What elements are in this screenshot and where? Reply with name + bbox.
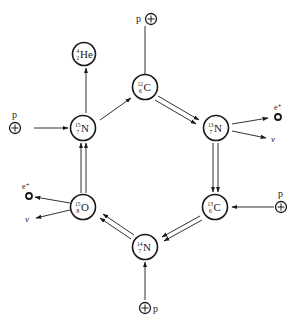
positron-left	[26, 193, 32, 199]
positron-right	[275, 114, 281, 120]
proton-right	[276, 202, 287, 213]
arrow-n13-to-positron	[232, 118, 268, 124]
proton-top-label: p	[136, 13, 141, 24]
c13-mass: 13	[208, 201, 214, 207]
arrow-n15-to-c12	[100, 98, 131, 120]
arrow-n13-to-neutrino	[232, 131, 266, 138]
nucleus-n15: 15 7 N	[71, 116, 96, 141]
cno-cycle-diagram: 12 6 C 13 7 N 13 6 C 14 7 N 15 8 O 15 7 …	[0, 0, 301, 335]
n13-charge: 7	[210, 129, 213, 135]
n15-charge: 7	[77, 129, 80, 135]
arrow-n13-to-c13	[213, 143, 218, 192]
neutrino-left-label: v	[25, 214, 29, 224]
neutrino-right-label: v	[271, 134, 275, 144]
positron-right-label: e⁺	[274, 103, 282, 112]
arrow-c13-to-n14	[162, 216, 202, 241]
nucleus-c13: 13 6 C	[203, 195, 228, 220]
c12-mass: 12	[138, 81, 144, 87]
n15-symbol: N	[81, 122, 89, 134]
positron-left-label: e⁺	[22, 182, 30, 191]
n15-mass: 15	[75, 122, 81, 128]
proton-right-label: p	[278, 188, 283, 199]
arrow-o15-to-neutrino	[36, 210, 70, 218]
arrow-n14-to-o15	[100, 214, 134, 239]
arrow-c12-to-n13	[155, 96, 199, 124]
n14-mass: 14	[137, 241, 143, 247]
n13-symbol: N	[214, 122, 222, 134]
nucleus-he4: 4 2 He	[73, 43, 96, 66]
arrow-o15-to-positron	[35, 197, 70, 203]
c13-charge: 6	[209, 208, 212, 214]
c12-symbol: C	[144, 81, 151, 93]
nucleus-o15: 15 8 O	[71, 195, 96, 220]
n14-charge: 7	[139, 248, 142, 254]
n13-mass: 13	[208, 122, 214, 128]
o15-symbol: O	[81, 201, 89, 213]
c12-charge: 6	[139, 88, 142, 94]
nucleus-c12: 12 6 C	[133, 75, 158, 100]
proton-left	[10, 123, 21, 134]
he4-symbol: He	[80, 48, 93, 60]
proton-bottom	[140, 303, 151, 314]
arrow-o15-to-n15	[81, 143, 86, 193]
o15-charge: 8	[77, 208, 80, 214]
c13-symbol: C	[214, 201, 221, 213]
nucleus-n14: 14 7 N	[133, 235, 158, 260]
proton-left-label: p	[12, 109, 17, 120]
proton-bottom-label: p	[153, 303, 158, 314]
n14-symbol: N	[143, 241, 151, 253]
nucleus-n13: 13 7 N	[204, 116, 229, 141]
o15-mass: 15	[75, 201, 81, 207]
proton-top	[146, 14, 157, 25]
